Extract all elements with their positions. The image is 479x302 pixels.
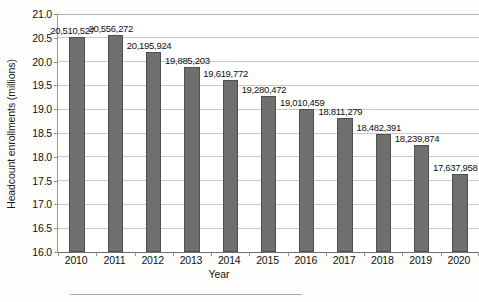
x-axis-tick-label: 2019 <box>409 254 432 266</box>
footer-rule <box>70 294 302 295</box>
y-axis-tick-label: 16.5 <box>32 222 52 234</box>
y-axis-tick-label: 21.0 <box>32 8 52 20</box>
y-axis-tick-mark <box>54 38 58 39</box>
y-axis-tick-label: 20.0 <box>32 56 52 68</box>
bar-value-label: 18,239,874 <box>395 133 440 144</box>
bar <box>414 145 429 252</box>
y-axis-tick-mark <box>54 157 58 158</box>
bar-value-label: 19,885,203 <box>165 55 210 66</box>
x-axis-tick-label: 2011 <box>104 254 126 266</box>
y-axis-tick-label: 18.0 <box>32 151 52 163</box>
y-axis-tick-mark <box>54 14 58 15</box>
bar-value-label: 19,280,472 <box>242 84 287 95</box>
bar <box>299 109 314 252</box>
bar <box>108 35 123 252</box>
y-axis-tick-labels: 21.020.520.019.519.018.518.017.517.016.5… <box>18 14 55 252</box>
x-axis-tick-label: 2013 <box>180 254 203 266</box>
bar <box>337 118 352 252</box>
y-axis-tick-mark <box>54 204 58 205</box>
x-axis-title-text: Year <box>208 268 229 280</box>
x-axis-title: Year <box>0 268 478 280</box>
y-axis-tick-label: 17.5 <box>32 175 52 187</box>
x-axis-tick-label: 2016 <box>294 254 317 266</box>
y-axis-tick-mark <box>54 62 58 63</box>
x-axis-tick-label: 2017 <box>333 254 356 266</box>
x-axis-tick-label: 2015 <box>256 254 279 266</box>
y-axis-tick-mark <box>54 228 58 229</box>
bar <box>261 96 276 252</box>
y-axis-title-text: Headcount enrollments (millions) <box>5 59 17 209</box>
x-axis-tick-label: 2010 <box>65 254 88 266</box>
bar-value-label: 17,637,958 <box>433 162 478 173</box>
y-axis-tick-mark <box>54 133 58 134</box>
bar-value-label: 18,811,279 <box>319 106 363 117</box>
y-axis-tick-label: 18.5 <box>32 127 52 139</box>
bar <box>184 67 199 252</box>
x-axis-tick-label: 2014 <box>218 254 241 266</box>
bar <box>146 52 161 252</box>
bar <box>452 174 467 252</box>
bar <box>69 37 84 252</box>
y-axis-tick-mark <box>54 109 58 110</box>
bar-value-label: 18,482,391 <box>356 122 401 133</box>
y-axis-tick-label: 19.5 <box>32 79 52 91</box>
x-axis-tick-label: 2020 <box>448 254 471 266</box>
bar-value-label: 20,195,924 <box>127 40 172 51</box>
plot-area: 20,510,52720,556,27220,195,92419,885,203… <box>57 14 479 252</box>
y-axis-tick-mark <box>54 181 58 182</box>
y-axis-tick-mark <box>54 85 58 86</box>
bar <box>223 80 238 252</box>
x-axis-tick-label: 2018 <box>371 254 394 266</box>
y-axis-tick-label: 19.0 <box>32 103 52 115</box>
bar-value-label: 19,619,772 <box>203 68 248 79</box>
gridline <box>58 14 479 15</box>
bar <box>376 134 391 252</box>
x-axis-tick-label: 2012 <box>141 254 164 266</box>
bar-value-label: 20,556,272 <box>89 23 134 34</box>
y-axis-tick-label: 16.0 <box>32 246 52 258</box>
y-axis-tick-label: 17.0 <box>32 198 52 210</box>
y-axis-tick-label: 20.5 <box>32 32 52 44</box>
